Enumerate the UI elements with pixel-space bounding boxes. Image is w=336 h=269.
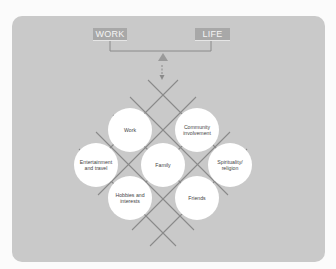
- work-label: WORK: [96, 29, 125, 39]
- node-label: Friends: [188, 195, 205, 201]
- node-entertainment-travel: Entertainment and travel: [74, 143, 118, 187]
- node-label: Community involvement: [176, 124, 218, 137]
- node-work: Work: [108, 108, 152, 152]
- work-label-box: WORK: [93, 28, 127, 41]
- node-label: Family: [155, 162, 170, 168]
- down-arrow-icon: [160, 65, 165, 80]
- fulcrum-triangle-icon: [158, 53, 168, 61]
- node-friends: Friends: [175, 176, 219, 220]
- node-hobbies-interests: Hobbies and interests: [108, 176, 152, 220]
- node-label: Work: [124, 127, 136, 133]
- node-spirituality-religion: Spirituality/ religion: [208, 143, 252, 187]
- life-label-box: LIFE: [195, 28, 230, 41]
- node-label: Hobbies and interests: [109, 192, 151, 205]
- balance-beam: [110, 41, 211, 51]
- node-community-involvement: Community involvement: [175, 108, 219, 152]
- life-label: LIFE: [203, 29, 223, 39]
- balance-lattice: [0, 0, 336, 269]
- node-label: Spirituality/ religion: [209, 159, 251, 172]
- node-label: Entertainment and travel: [75, 159, 117, 172]
- node-family: Family: [141, 143, 185, 187]
